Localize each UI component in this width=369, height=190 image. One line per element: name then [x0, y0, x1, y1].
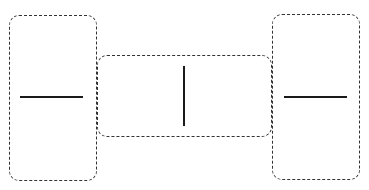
middle-vertical-line — [183, 66, 185, 126]
left-horizontal-line — [20, 96, 83, 98]
left-dashed-box — [9, 15, 97, 181]
middle-dashed-box — [97, 55, 272, 137]
diagram-canvas — [0, 0, 369, 190]
right-horizontal-line — [284, 96, 347, 98]
